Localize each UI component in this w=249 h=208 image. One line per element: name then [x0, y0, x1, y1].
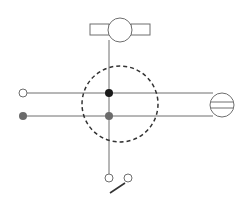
wiring-diagram	[0, 0, 249, 208]
lamp-icon	[90, 18, 150, 42]
junction-box-icon	[82, 66, 158, 142]
supply-neutral-terminal-icon	[19, 112, 27, 120]
supply-live-terminal-icon	[19, 89, 27, 97]
switch-icon	[105, 174, 132, 193]
live-junction-dot	[105, 89, 113, 97]
socket-icon	[210, 93, 234, 117]
neutral-junction-dot	[105, 112, 113, 120]
